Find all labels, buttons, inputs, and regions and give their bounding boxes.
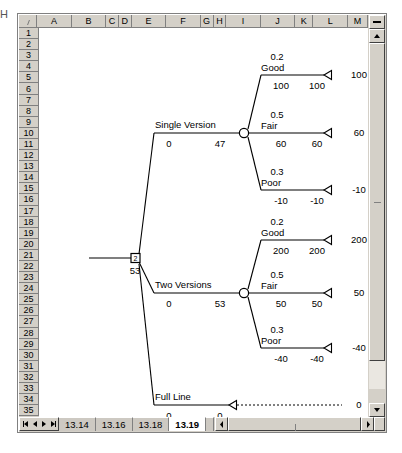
row-header[interactable]: 27 — [19, 316, 39, 327]
outcome-probability-fair-1: 0.5 — [270, 110, 283, 120]
row-header-column: 1 2 3 4 5 6 7 8 9 10 11 12 13 14 15 16 1… — [19, 28, 39, 416]
next-sheet-icon[interactable] — [39, 418, 48, 430]
scroll-collapse-button[interactable] — [369, 15, 385, 29]
select-all-corner[interactable] — [19, 15, 37, 28]
sheet-nav-buttons[interactable] — [19, 417, 59, 431]
outcome-payoff-poor-2: -40 — [274, 354, 288, 364]
vertical-scroll-track[interactable] — [369, 43, 385, 389]
row-header[interactable]: 35 — [19, 405, 39, 416]
column-header-H[interactable]: H — [214, 15, 227, 28]
outcome-net-poor-2: -40 — [310, 354, 324, 364]
row-header[interactable]: 2 — [19, 39, 39, 50]
column-header-B[interactable]: B — [72, 15, 107, 28]
row-header[interactable]: 13 — [19, 161, 39, 172]
row-header[interactable]: 31 — [19, 361, 39, 372]
row-header[interactable]: 25 — [19, 294, 39, 305]
column-header-C[interactable]: C — [106, 15, 119, 28]
sheet-tab-13-19[interactable]: 13.19 — [169, 417, 206, 431]
column-header-J[interactable]: J — [261, 15, 296, 28]
scroll-up-button[interactable] — [369, 29, 385, 43]
row-header[interactable]: 32 — [19, 372, 39, 383]
row-header[interactable]: 6 — [19, 83, 39, 94]
column-header-A[interactable]: A — [37, 15, 72, 28]
outcome-net-fair-2: 50 — [312, 299, 323, 309]
row-header[interactable]: 29 — [19, 339, 39, 350]
row-header[interactable]: 14 — [19, 172, 39, 183]
outcome-label-fair-1: Fair — [261, 121, 277, 131]
vertical-scrollbar[interactable] — [369, 15, 385, 417]
outcome-label-poor-1: Poor — [261, 178, 281, 188]
row-header[interactable]: 12 — [19, 150, 39, 161]
outcome-net-good-1: 100 — [309, 81, 325, 91]
row-header[interactable]: 18 — [19, 217, 39, 228]
row-header[interactable]: 19 — [19, 228, 39, 239]
row-header[interactable]: 26 — [19, 305, 39, 316]
column-header-M[interactable]: M — [348, 15, 368, 28]
row-header[interactable]: 3 — [19, 50, 39, 61]
row-header[interactable]: 16 — [19, 194, 39, 205]
outcome-label-fair-2: Fair — [261, 281, 277, 291]
outcome-probability-good-2: 0.2 — [270, 217, 283, 227]
scroll-left-button[interactable] — [215, 417, 228, 431]
column-header-K[interactable]: K — [295, 15, 313, 28]
screenshot-root: H A B C D E F G H I J K L M 1 2 3 4 5 6 … — [0, 0, 402, 453]
worksheet-grid[interactable]: 2 53 Single Version 0 47 0.2 Good 100 10… — [39, 28, 368, 417]
branch-cost-single-version: 0 — [166, 139, 171, 149]
outcome-probability-poor-1: 0.3 — [270, 167, 283, 177]
column-header-G[interactable]: G — [201, 15, 214, 28]
horizontal-scrollbar[interactable] — [215, 417, 385, 431]
row-header[interactable]: 15 — [19, 183, 39, 194]
row-header[interactable]: 11 — [19, 139, 39, 150]
sheet-tab-13-14[interactable]: 13.14 — [59, 417, 96, 431]
row-header[interactable]: 33 — [19, 383, 39, 394]
sheet-tab-13-16[interactable]: 13.16 — [96, 417, 133, 431]
vertical-scroll-thumb[interactable] — [369, 43, 385, 361]
sheet-tab-13-18[interactable]: 13.18 — [133, 417, 170, 431]
outcome-probability-good-1: 0.2 — [270, 52, 283, 62]
horizontal-scroll-track[interactable] — [228, 417, 361, 431]
row-header[interactable]: 9 — [19, 117, 39, 128]
row-header[interactable]: 24 — [19, 283, 39, 294]
triangle-up-icon — [374, 34, 380, 38]
column-header-L[interactable]: L — [313, 15, 348, 28]
row-header[interactable]: 23 — [19, 272, 39, 283]
first-sheet-icon[interactable] — [21, 418, 30, 430]
sheet-tab-bar: 13.14 13.16 13.18 13.19 — [19, 417, 385, 431]
last-sheet-icon[interactable] — [48, 418, 57, 430]
row-header[interactable]: 28 — [19, 328, 39, 339]
sheet-tab-tail — [206, 417, 214, 431]
outcome-net-fair-1: 60 — [312, 139, 323, 149]
outcome-probability-poor-2: 0.3 — [270, 325, 283, 335]
column-header-F[interactable]: F — [166, 15, 201, 28]
column-header-E[interactable]: E — [132, 15, 167, 28]
row-header[interactable]: 30 — [19, 350, 39, 361]
row-header[interactable]: 17 — [19, 206, 39, 217]
branch-label-two-versions: Two Versions — [155, 280, 212, 290]
row-header[interactable]: 5 — [19, 72, 39, 83]
terminal-value-full-line: 0 — [356, 400, 361, 410]
outcome-probability-fair-2: 0.5 — [270, 270, 283, 280]
row-header[interactable]: 22 — [19, 261, 39, 272]
column-header-D[interactable]: D — [119, 15, 132, 28]
row-header[interactable]: 1 — [19, 28, 39, 39]
row-header[interactable]: 34 — [19, 394, 39, 405]
horizontal-scroll-thumb[interactable] — [228, 417, 361, 431]
row-header[interactable]: 21 — [19, 250, 39, 261]
scroll-right-button[interactable] — [361, 417, 374, 431]
row-header[interactable]: 8 — [19, 106, 39, 117]
spreadsheet-window: A B C D E F G H I J K L M 1 2 3 4 5 6 7 … — [17, 13, 387, 433]
row-header[interactable]: 7 — [19, 95, 39, 106]
scroll-down-button[interactable] — [369, 403, 385, 417]
branch-ev-single-version: 47 — [215, 139, 226, 149]
previous-sheet-icon[interactable] — [30, 418, 39, 430]
row-header[interactable]: 20 — [19, 239, 39, 250]
resize-grip[interactable] — [374, 417, 385, 431]
outcome-payoff-good-1: 100 — [273, 81, 289, 91]
terminal-value-fair-1: 60 — [354, 128, 365, 138]
outcome-payoff-fair-2: 50 — [276, 299, 287, 309]
row-header[interactable]: 4 — [19, 61, 39, 72]
outcome-net-poor-1: -10 — [310, 196, 324, 206]
column-header-I[interactable]: I — [226, 15, 261, 28]
row-header[interactable]: 10 — [19, 128, 39, 139]
terminal-value-fair-2: 50 — [354, 288, 365, 298]
